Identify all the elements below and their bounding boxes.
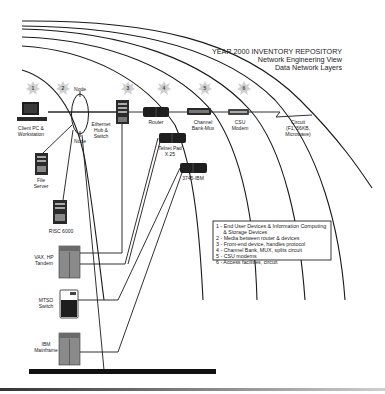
svg-text:RISC 6000: RISC 6000 <box>49 228 74 234</box>
svg-text:6 - Access facilities, circuit: 6 - Access facilities, circuit <box>216 259 278 265</box>
layer-badge-6: 6 <box>237 81 251 95</box>
svg-text:X.25: X.25 <box>165 151 176 157</box>
legend-box: 1 - End User Devices & Information Compu… <box>213 221 331 265</box>
keyboard-icon <box>17 117 47 121</box>
svg-text:1: 1 <box>32 85 35 91</box>
svg-text:6: 6 <box>243 85 246 91</box>
circuit-lightning-link <box>270 112 312 117</box>
vax-hp-tandem-device: VAX, HP Tandem <box>34 246 80 278</box>
mtso-switch-device: MTSO Switch <box>39 290 78 318</box>
layer-badges: 1 2 3 4 5 6 <box>26 81 251 95</box>
svg-text:Router: Router <box>148 119 163 125</box>
telnet-pad-icon <box>159 133 186 143</box>
csu-modem-device: CSU Modem <box>228 109 249 131</box>
svg-text:Mainframe: Mainframe <box>34 347 58 353</box>
client-pc-device: Client PC & Workstation <box>17 102 47 137</box>
ibm-3745-device: 3745-IBM <box>180 163 207 181</box>
network-layers-diagram: YEAR 2000 INVENTORY REPOSITORY Network E… <box>0 0 385 394</box>
svg-text:Switch: Switch <box>94 133 109 139</box>
ground-bar <box>29 369 216 374</box>
node-bottom-label: Node <box>74 138 86 144</box>
layer-badge-3: 3 <box>121 81 135 95</box>
svg-text:Switch: Switch <box>39 303 54 309</box>
risc-6000-device: RISC 6000 <box>49 200 74 234</box>
svg-text:2: 2 <box>62 85 65 91</box>
circuit-label: Circuit (F1, 56KB, Microwave) <box>285 119 311 137</box>
node-top-label: Node <box>74 86 86 92</box>
file-server-device: File Server <box>34 153 49 189</box>
node-ring <box>72 94 89 134</box>
ethernet-hub-device: Ethernet Hub & Switch <box>92 100 129 139</box>
router-device: Router <box>143 107 169 125</box>
svg-text:Server: Server <box>34 183 49 189</box>
svg-text:Tandem: Tandem <box>35 260 53 266</box>
svg-text:4: 4 <box>163 85 166 91</box>
layer-badge-2: 2 <box>56 81 70 95</box>
layer-badge-5: 5 <box>198 81 212 95</box>
layer-badge-1: 1 <box>26 81 40 95</box>
channel-bank-device: Channel Bank-Mux <box>187 108 215 131</box>
svg-text:3745-IBM: 3745-IBM <box>182 175 204 181</box>
layer-badge-4: 4 <box>157 81 171 95</box>
ibm-mainframe-device: IBM Mainframe <box>34 333 80 365</box>
svg-text:3: 3 <box>127 85 130 91</box>
svg-text:5: 5 <box>204 85 207 91</box>
front-end-processor-icon <box>180 163 207 173</box>
svg-text:Workstation: Workstation <box>18 131 45 137</box>
title-line-3: Data Network Layers <box>275 63 343 72</box>
svg-text:Bank-Mux: Bank-Mux <box>192 125 215 131</box>
svg-text:Microwave): Microwave) <box>285 131 311 137</box>
telnet-pad-device: Telnet Pad X.25 <box>158 133 186 157</box>
bottom-rule <box>0 388 385 391</box>
svg-text:Modem: Modem <box>232 125 249 131</box>
